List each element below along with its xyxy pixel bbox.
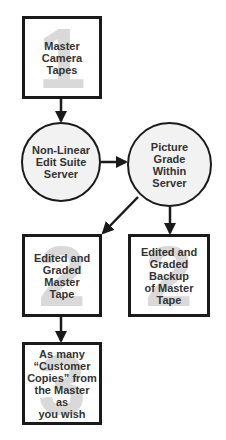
node-label: Picture Grade Within Server xyxy=(149,141,190,189)
label-line: Edited and xyxy=(141,246,197,258)
node-non-linear-edit-suite: Non-Linear Edit Suite Server xyxy=(21,122,101,202)
arrow-grade-to-master xyxy=(103,197,138,233)
label-line: Server xyxy=(151,177,188,189)
label-line: Tape xyxy=(141,294,197,306)
node-label: As many “Customer Copies” from the Maste… xyxy=(25,348,99,420)
label-line: Master xyxy=(42,40,82,52)
node-picture-grade: Picture Grade Within Server xyxy=(127,122,212,207)
label-line: Graded xyxy=(34,264,90,276)
label-line: “Customer xyxy=(27,360,97,372)
label-line: Picture xyxy=(151,141,188,153)
node-master-camera-tapes: 1 Master Camera Tapes xyxy=(22,16,102,99)
label-line: Grade xyxy=(151,153,188,165)
label-line: Within xyxy=(151,165,188,177)
label-line: Server xyxy=(32,168,90,180)
label-line: Backup xyxy=(141,270,197,282)
node-label: Edited and Graded Master Tape xyxy=(32,252,92,300)
label-line: Non-Linear xyxy=(32,144,90,156)
label-line: As many xyxy=(27,348,97,360)
label-line: Copies” from xyxy=(27,372,97,384)
node-edited-graded-backup: 2 Edited and Graded Backup of Master Tap… xyxy=(128,234,210,317)
node-label: Non-Linear Edit Suite Server xyxy=(30,144,92,180)
label-line: Master xyxy=(34,276,90,288)
label-line: Edited and xyxy=(34,252,90,264)
node-customer-copies: 3 As many “Customer Copies” from the Mas… xyxy=(22,342,102,425)
label-line: Camera xyxy=(42,52,82,64)
node-label: Master Camera Tapes xyxy=(40,40,84,76)
label-line: Tape xyxy=(34,288,90,300)
label-line: the Master as xyxy=(27,384,97,408)
label-line: Graded xyxy=(141,258,197,270)
label-line: you wish xyxy=(27,408,97,420)
node-label: Edited and Graded Backup of Master Tape xyxy=(139,246,199,306)
label-line: Edit Suite xyxy=(32,156,90,168)
node-edited-graded-master: 2 Edited and Graded Master Tape xyxy=(22,234,102,317)
label-line: Tapes xyxy=(42,64,82,76)
label-line: of Master xyxy=(141,282,197,294)
